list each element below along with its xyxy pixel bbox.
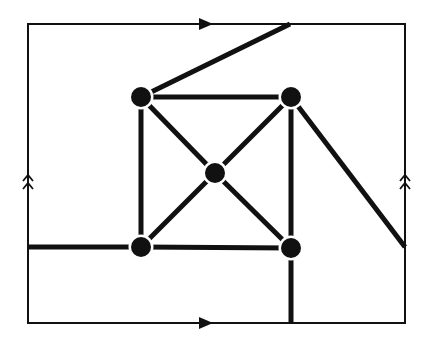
vertex-top-left bbox=[131, 87, 151, 107]
vertex-top-right bbox=[281, 87, 301, 107]
vertex-center bbox=[205, 163, 225, 183]
vertex-bottom-right bbox=[281, 238, 301, 258]
torus-graph-diagram bbox=[0, 0, 423, 346]
vertex-bottom-left bbox=[131, 237, 151, 257]
edge-square-bottom bbox=[141, 247, 291, 248]
